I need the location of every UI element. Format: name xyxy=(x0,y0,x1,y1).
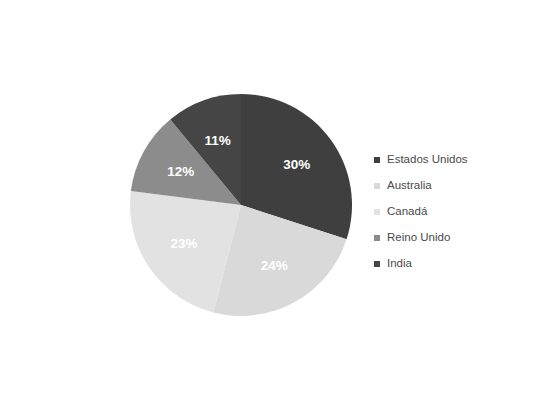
legend-item-label: Estados Unidos xyxy=(387,154,468,166)
pie-slice-label: 23% xyxy=(171,236,198,251)
legend-swatch-icon xyxy=(374,157,380,163)
legend-item[interactable]: Reino Unido xyxy=(374,225,494,251)
chart-legend: Estados UnidosAustraliaCanadáReino Unido… xyxy=(374,147,494,277)
legend-swatch-icon xyxy=(374,183,380,189)
legend-swatch-icon xyxy=(374,209,380,215)
legend-swatch-icon xyxy=(374,261,380,267)
pie-slice-label: 12% xyxy=(167,164,194,179)
legend-item-label: India xyxy=(387,258,412,270)
pie-chart-svg: 30%24%23%12%11% xyxy=(130,94,352,316)
legend-item[interactable]: Australia xyxy=(374,173,494,199)
pie-slice-label: 30% xyxy=(283,157,310,172)
pie-slice-group xyxy=(130,94,352,316)
legend-item-label: Australia xyxy=(387,180,432,192)
pie-chart: 30%24%23%12%11% xyxy=(130,94,352,316)
chart-canvas: 30%24%23%12%11% Estados UnidosAustraliaC… xyxy=(0,0,555,406)
legend-item[interactable]: India xyxy=(374,251,494,277)
pie-slice-label: 11% xyxy=(205,133,231,148)
pie-slice-label: 24% xyxy=(261,258,288,273)
legend-item-label: Reino Unido xyxy=(387,232,450,244)
legend-item[interactable]: Canadá xyxy=(374,199,494,225)
legend-item-label: Canadá xyxy=(387,206,427,218)
legend-swatch-icon xyxy=(374,235,380,241)
legend-item[interactable]: Estados Unidos xyxy=(374,147,494,173)
